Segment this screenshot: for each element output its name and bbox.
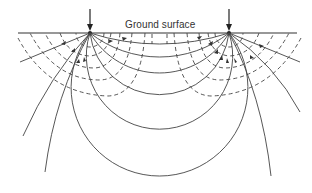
equipotential-ticks-center <box>152 34 167 44</box>
right-electrode-arrow-icon <box>226 9 232 35</box>
ground-surface-label: Ground surface <box>125 19 195 30</box>
electrode-field-diagram: Ground surface <box>0 0 312 193</box>
current-flow-lines <box>20 33 300 176</box>
left-electrode-arrow-icon <box>87 9 93 35</box>
